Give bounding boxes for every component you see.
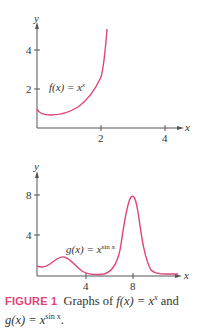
curve-f — [37, 29, 107, 115]
top-x-label: x — [184, 121, 190, 133]
g-label: g(x) = xsin x — [66, 243, 115, 256]
top-x-tick-2: 2 — [98, 132, 104, 144]
f-label: f(x) = xx — [49, 81, 86, 94]
top-chart: y x 4 2 2 4 f(x) = xx — [26, 12, 190, 144]
bottom-y-tick-4: 4 — [26, 229, 32, 241]
caption-g: g(x) = x — [5, 313, 45, 327]
top-y-tick-4: 4 — [26, 44, 32, 56]
top-x-tick-4: 4 — [162, 132, 168, 144]
bottom-y-tick-8: 8 — [26, 189, 32, 201]
top-x-arrow-icon — [177, 126, 184, 130]
top-y-label: y — [33, 12, 39, 24]
figure-graphs: y x 4 2 2 4 f(x) = xx y x 8 4 4 8 g(x) =… — [0, 0, 206, 334]
bottom-chart: y x 8 4 4 8 g(x) = xsin x — [26, 160, 189, 292]
bottom-y-arrow-icon — [35, 171, 39, 178]
figure-caption: FIGURE 1 Graphs of f(x) = xx and g(x) = … — [5, 290, 205, 328]
caption-f: f(x) = x — [116, 294, 154, 308]
top-y-tick-2: 2 — [26, 83, 32, 95]
bottom-x-label: x — [183, 269, 189, 281]
curve-g — [37, 196, 178, 274]
bottom-y-label: y — [33, 160, 39, 172]
figure-label: FIGURE 1 — [5, 295, 57, 307]
caption-text-1: Graphs of — [64, 294, 117, 308]
